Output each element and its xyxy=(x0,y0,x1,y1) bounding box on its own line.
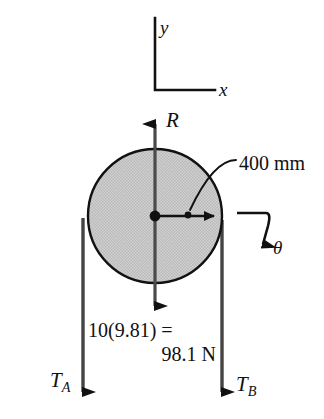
weight-expression: 10(9.81) = xyxy=(88,319,173,341)
center-point-dot xyxy=(150,211,161,222)
weight-force-label: 10(9.81) = 98.1 N xyxy=(88,320,216,364)
tension-b-symbol: T xyxy=(236,372,248,396)
y-axis-label: y xyxy=(160,18,168,37)
free-body-diagram: y x R 400 mm θ 10(9.81) = 98.1 N TA TB xyxy=(0,0,324,419)
tension-a-subscript: A xyxy=(62,379,71,395)
theta-rotation-arrow xyxy=(237,213,269,244)
dimension-leader-dot xyxy=(185,212,192,219)
tension-b-label: TB xyxy=(236,374,256,398)
theta-label: θ xyxy=(273,238,282,257)
tension-a-label: TA xyxy=(50,370,70,394)
tension-a-symbol: T xyxy=(50,368,62,392)
reaction-force-label: R xyxy=(166,110,179,131)
theta-arrow-path xyxy=(237,213,269,244)
weight-value: 98.1 N xyxy=(88,344,216,364)
x-axis-label: x xyxy=(219,80,227,99)
radius-dimension-label: 400 mm xyxy=(239,153,305,173)
tension-b-subscript: B xyxy=(248,383,257,399)
